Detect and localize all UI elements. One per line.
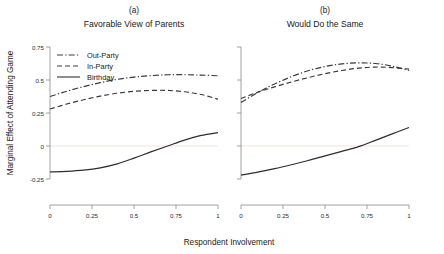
- y-axis-title: Marginal Effect of Attending Game: [6, 50, 15, 175]
- panel-a: (a) Favorable View of Parents 0.75 0.5 0…: [30, 6, 220, 219]
- panel-a-xticklabel-0: 0: [48, 212, 52, 219]
- panel-b-series-birthday: [241, 128, 409, 176]
- panel-a-series-birthday: [50, 133, 218, 172]
- panel-b-xticklabel-1: 1: [407, 212, 411, 219]
- figure-container: (a) Favorable View of Parents 0.75 0.5 0…: [0, 0, 444, 254]
- panel-b-xticklabel-075: 0.75: [361, 212, 374, 219]
- x-axis-title: Respondent Involvement: [184, 238, 275, 247]
- panel-b-xticklabel-025: 0.25: [277, 212, 290, 219]
- panel-b-xticklabel-05: 0.5: [321, 212, 330, 219]
- panel-a-xticklabel-025: 0.25: [86, 212, 99, 219]
- panel-b: (b) Would Do the Same 0 0.25 0.5 0.75 1: [237, 6, 411, 219]
- panel-a-yticklabel-075: 0.75: [32, 44, 45, 51]
- legend-label-in-party: In-Party: [87, 62, 113, 71]
- panel-a-letter: (a): [129, 6, 139, 15]
- panel-a-xticklabel-05: 0.5: [130, 212, 139, 219]
- panel-a-yticklabel-0: 0: [41, 143, 45, 150]
- panel-a-title: Favorable View of Parents: [84, 19, 185, 29]
- legend: Out-Party In-Party Birthday: [57, 51, 119, 82]
- legend-label-birthday: Birthday: [87, 73, 114, 82]
- panel-b-title: Would Do the Same: [287, 19, 364, 29]
- panel-a-yticklabel-050: 0.5: [35, 77, 44, 84]
- panel-b-xticklabel-0: 0: [239, 212, 243, 219]
- panel-a-xticklabel-075: 0.75: [170, 212, 183, 219]
- panel-b-series-in-party: [241, 67, 409, 98]
- panel-a-yticklabel-neg025: -0.25: [30, 176, 45, 183]
- panel-a-series-in-party: [50, 90, 218, 109]
- panel-b-series-out-party: [241, 63, 409, 103]
- panel-b-letter: (b): [320, 6, 330, 15]
- panel-a-yticklabel-025: 0.25: [32, 110, 45, 117]
- two-panel-line-chart: (a) Favorable View of Parents 0.75 0.5 0…: [0, 0, 444, 254]
- legend-label-out-party: Out-Party: [87, 51, 119, 60]
- panel-a-xticklabel-1: 1: [216, 212, 220, 219]
